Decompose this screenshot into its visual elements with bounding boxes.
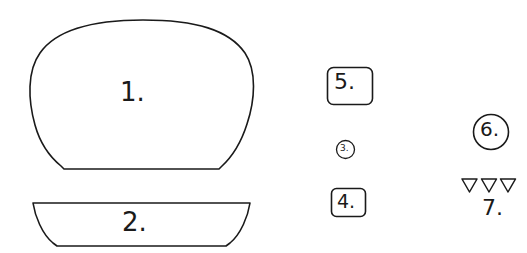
- label-part-5: 5.: [334, 71, 355, 93]
- label-part-3: 3.: [340, 144, 349, 153]
- label-part-2: 2.: [122, 209, 147, 235]
- label-part-7: 7.: [482, 197, 503, 219]
- diagram-canvas: 1. 2. 3. 4. 5. 6. 7.: [0, 0, 527, 253]
- label-part-1: 1.: [120, 79, 145, 105]
- shape-triangle-2-icon: [482, 179, 497, 192]
- label-part-6: 6.: [480, 119, 499, 139]
- shape-triangle-1-icon: [462, 179, 477, 192]
- shape-triangle-3-icon: [501, 179, 516, 192]
- diagram-shapes: [0, 0, 527, 253]
- label-part-4: 4.: [337, 192, 355, 211]
